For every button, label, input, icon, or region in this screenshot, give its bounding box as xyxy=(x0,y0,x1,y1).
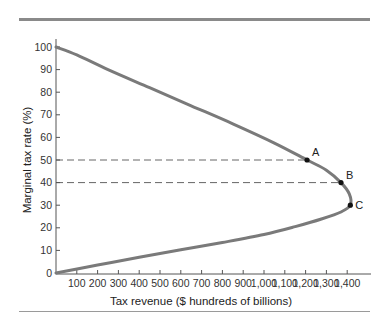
x-tick-label: 1,400 xyxy=(334,277,360,289)
x-tick-label: 100 xyxy=(68,277,86,289)
y-tick-label: 60 xyxy=(40,131,52,143)
y-tick-label: 40 xyxy=(40,176,52,188)
x-tick-label: 200 xyxy=(89,277,107,289)
x-tick-label: 500 xyxy=(151,277,169,289)
y-tick-label: 70 xyxy=(40,108,52,120)
point-a-label: A xyxy=(312,146,320,158)
x-tick-label: 600 xyxy=(172,277,190,289)
y-tick-label: 90 xyxy=(40,63,52,75)
x-tick-label: 400 xyxy=(130,277,148,289)
y-tick-label: 30 xyxy=(40,199,52,211)
y-tick-label: 50 xyxy=(40,154,52,166)
y-tick-label: 0 xyxy=(46,267,52,279)
point-c-label: C xyxy=(355,199,363,211)
point-a-marker xyxy=(304,157,309,162)
x-axis-title: Tax revenue ($ hundreds of billions) xyxy=(110,295,292,307)
point-b-label: B xyxy=(346,169,353,181)
x-tick-label: 300 xyxy=(110,277,128,289)
laffer-curve-chart: 0102030405060708090100100200300400500600… xyxy=(0,0,389,328)
y-axis-title: Marginal tax rate (%) xyxy=(21,106,33,213)
x-tick-label: 700 xyxy=(193,277,211,289)
x-tick-label: 800 xyxy=(214,277,232,289)
y-tick-label: 80 xyxy=(40,86,52,98)
x-tick-label: 900 xyxy=(234,277,252,289)
bottom-rule xyxy=(19,311,370,312)
annotated-points: ABC xyxy=(304,146,363,211)
y-tick-label: 10 xyxy=(40,244,52,256)
y-tick-label: 20 xyxy=(40,221,52,233)
point-c-marker xyxy=(348,203,353,208)
y-tick-label: 100 xyxy=(34,41,52,53)
point-b-marker xyxy=(338,180,343,185)
axes: 0102030405060708090100100200300400500600… xyxy=(34,39,371,289)
reference-lines xyxy=(56,160,341,183)
